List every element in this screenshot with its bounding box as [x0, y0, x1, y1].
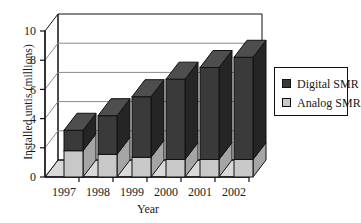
x-axis-title: Year [113, 202, 183, 217]
x-tick-label-1998: 1998 [80, 186, 116, 198]
bar-2002-digital-side [253, 40, 266, 159]
legend: Digital SMR Analog SMR [274, 67, 348, 116]
legend-label-analog: Analog SMR [297, 97, 361, 109]
bar-2002-digital-front [234, 57, 253, 159]
legend-item-digital[interactable]: Digital SMR [282, 74, 339, 93]
x-tick-label-1999: 1999 [114, 186, 150, 198]
x-tick-label-2002: 2002 [216, 186, 252, 198]
legend-swatch-analog-icon [282, 98, 291, 107]
legend-item-analog[interactable]: Analog SMR [282, 93, 339, 112]
legend-label-digital: Digital SMR [297, 78, 359, 90]
legend-swatch-digital-icon [282, 79, 291, 88]
x-tick-label-1997: 1997 [46, 186, 82, 198]
x-tick-label-2001: 2001 [182, 186, 218, 198]
x-tick-label-2000: 2000 [148, 186, 184, 198]
